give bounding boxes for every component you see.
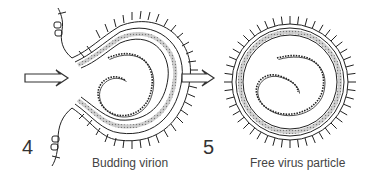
caption-budding-virion: Budding virion: [92, 156, 168, 170]
arrow-into-budding-icon: [25, 70, 68, 86]
free-virus-particle-drawing: [224, 16, 356, 148]
arrow-to-free-particle-icon: [182, 70, 214, 86]
budding-virion-drawing: [51, 8, 198, 166]
caption-free-virus-particle: Free virus particle: [250, 156, 345, 170]
step-number-5: 5: [203, 136, 214, 159]
virus-budding-diagram: [0, 0, 378, 176]
step-number-4: 4: [22, 136, 33, 159]
